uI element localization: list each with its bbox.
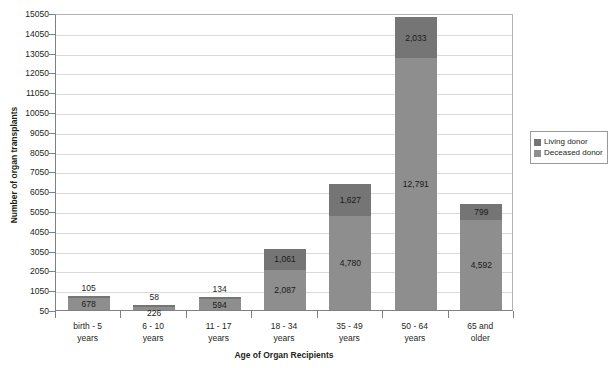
x-axis-tick-mark bbox=[120, 311, 121, 318]
bar-value-label-deceased-donor: 594 bbox=[199, 301, 241, 310]
x-axis-tick-label-line: years bbox=[249, 333, 319, 345]
legend-label-living-donor: Living donor bbox=[544, 137, 588, 147]
x-axis-tick-label-line: 65 and bbox=[445, 321, 515, 333]
bar-segment-living-donor[interactable]: 2,033 bbox=[395, 17, 437, 57]
bar-value-label-deceased-donor: 4,592 bbox=[460, 261, 502, 270]
x-axis-tick-label-line: 35 - 49 bbox=[314, 321, 384, 333]
gridline bbox=[56, 35, 512, 36]
gridline bbox=[56, 154, 512, 155]
x-axis-tick-label-line: years bbox=[314, 333, 384, 345]
bar-segment-deceased-donor[interactable]: 12,791 bbox=[395, 58, 437, 310]
x-axis-tick-mark bbox=[448, 311, 449, 318]
bar-segment-living-donor[interactable]: 1,061 bbox=[264, 249, 306, 270]
x-axis-tick-label: 35 - 49years bbox=[314, 321, 384, 344]
bar-4[interactable]: 1,0612,087 bbox=[264, 249, 306, 310]
bar-value-label-deceased-donor: 678 bbox=[68, 300, 110, 309]
legend-item-deceased-donor[interactable]: Deceased donor bbox=[534, 148, 603, 158]
gridline bbox=[56, 55, 512, 56]
bar-value-label-living-donor: 1,627 bbox=[329, 196, 371, 205]
gridline bbox=[56, 94, 512, 95]
gridline bbox=[56, 114, 512, 115]
x-axis-tick-mark bbox=[317, 311, 318, 318]
bar-value-label-deceased-donor: 4,780 bbox=[329, 259, 371, 268]
bar-segment-deceased-donor[interactable]: 2,087 bbox=[264, 270, 306, 310]
bar-segment-living-donor[interactable]: 799 bbox=[460, 204, 502, 220]
legend-label-deceased-donor: Deceased donor bbox=[544, 148, 603, 158]
bar-3[interactable]: 134594 bbox=[199, 297, 241, 310]
y-axis-tick-label: 13050 bbox=[8, 49, 49, 58]
bar-value-label-living-donor: 105 bbox=[68, 284, 110, 293]
y-axis-tick-label: 14050 bbox=[8, 30, 49, 39]
gridline bbox=[56, 74, 512, 75]
x-axis-tick-label-line: birth - 5 bbox=[53, 321, 123, 333]
bar-6[interactable]: 2,03312,791 bbox=[395, 17, 437, 310]
x-axis-tick-label: 6 - 10years bbox=[118, 321, 188, 344]
bar-segment-deceased-donor[interactable]: 594 bbox=[199, 299, 241, 310]
bar-value-label-living-donor: 134 bbox=[199, 285, 241, 294]
gridline bbox=[56, 233, 512, 234]
x-axis-tick-label: 65 andolder bbox=[445, 321, 515, 344]
bar-segment-deceased-donor[interactable]: 4,592 bbox=[460, 220, 502, 310]
bar-7[interactable]: 7994,592 bbox=[460, 204, 502, 310]
x-axis-tick-label-line: years bbox=[184, 333, 254, 345]
x-axis-tick-label-line: 50 - 64 bbox=[380, 321, 450, 333]
x-axis-tick-mark bbox=[186, 311, 187, 318]
legend[interactable]: Living donor Deceased donor bbox=[530, 131, 608, 164]
bar-segment-living-donor[interactable]: 1,627 bbox=[329, 184, 371, 216]
gridline bbox=[56, 193, 512, 194]
gridline bbox=[56, 134, 512, 135]
x-axis-tick-mark bbox=[513, 311, 514, 318]
gridline bbox=[56, 173, 512, 174]
y-axis-title: Number of organ transplants bbox=[9, 65, 19, 265]
legend-item-living-donor[interactable]: Living donor bbox=[534, 137, 603, 147]
bar-value-label-deceased-donor: 12,791 bbox=[395, 180, 437, 189]
bar-segment-deceased-donor[interactable]: 4,780 bbox=[329, 216, 371, 310]
bar-segment-deceased-donor[interactable]: 226 bbox=[133, 307, 175, 310]
bar-5[interactable]: 1,6274,780 bbox=[329, 184, 371, 310]
y-axis-tick-label: 50 bbox=[8, 307, 49, 316]
legend-swatch-icon-living-donor bbox=[534, 139, 541, 146]
plot-area: 105678582261345941,0612,0871,6274,7802,0… bbox=[55, 14, 513, 311]
x-axis-tick-mark bbox=[251, 311, 252, 318]
x-axis-tick-label-line: years bbox=[380, 333, 450, 345]
x-axis-tick-label: 50 - 64years bbox=[380, 321, 450, 344]
bar-value-label-living-donor: 1,061 bbox=[264, 255, 306, 264]
bar-segment-deceased-donor[interactable]: 678 bbox=[68, 298, 110, 310]
x-axis-tick-label-line: older bbox=[445, 333, 515, 345]
x-axis-tick-label-line: 11 - 17 bbox=[184, 321, 254, 333]
bar-value-label-living-donor: 799 bbox=[460, 208, 502, 217]
bar-value-label-deceased-donor: 226 bbox=[133, 309, 175, 318]
bar-value-label-deceased-donor: 2,087 bbox=[264, 286, 306, 295]
bar-2[interactable]: 58226 bbox=[133, 305, 175, 310]
bar-1[interactable]: 105678 bbox=[68, 296, 110, 311]
x-axis-tick-mark bbox=[55, 311, 56, 318]
legend-swatch-icon-deceased-donor bbox=[534, 150, 541, 157]
x-axis-tick-label: birth - 5years bbox=[53, 321, 123, 344]
x-axis-tick-label-line: 18 - 34 bbox=[249, 321, 319, 333]
x-axis-tick-label-line: 6 - 10 bbox=[118, 321, 188, 333]
y-axis-tick-label: 1050 bbox=[8, 287, 49, 296]
x-axis-tick-mark bbox=[382, 311, 383, 318]
y-axis-tick-label: 2050 bbox=[8, 267, 49, 276]
chart-root: Number of organ transplants 501050205030… bbox=[0, 0, 612, 368]
x-axis-tick-label-line: years bbox=[118, 333, 188, 345]
x-axis-tick-label: 11 - 17years bbox=[184, 321, 254, 344]
x-axis-tick-label: 18 - 34years bbox=[249, 321, 319, 344]
bar-value-label-living-donor: 2,033 bbox=[395, 33, 437, 42]
x-axis-tick-label-line: years bbox=[53, 333, 123, 345]
y-axis-tick-label: 15050 bbox=[8, 10, 49, 19]
x-axis-title: Age of Organ Recipients bbox=[55, 350, 513, 360]
bar-value-label-living-donor: 58 bbox=[133, 293, 175, 302]
gridline bbox=[56, 213, 512, 214]
